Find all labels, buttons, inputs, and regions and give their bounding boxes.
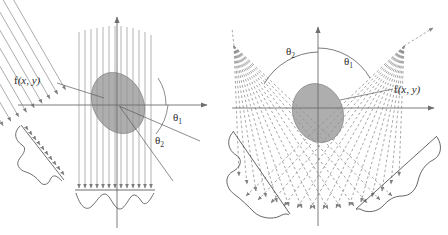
object-label-left: f(x, y) — [14, 74, 41, 87]
figure-canvas: f(x, y) θ1 θ2 — [0, 0, 448, 235]
object-label-right: f(x, y) — [394, 83, 421, 96]
canvas-background — [0, 0, 448, 235]
tomography-figure: f(x, y) θ1 θ2 — [0, 0, 448, 235]
